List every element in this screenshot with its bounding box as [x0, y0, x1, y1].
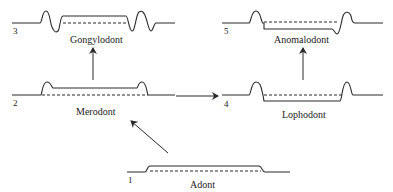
profile-anomalodont [222, 11, 383, 34]
label-adont: Adont [190, 179, 215, 190]
label-lophodont: Lophodont [282, 109, 326, 120]
profile-adont [127, 166, 290, 172]
profile-lophodont [222, 82, 383, 101]
stage-number-3: 3 [13, 26, 18, 36]
profile-merodont [12, 82, 175, 95]
label-anomalodont: Anomalodont [274, 34, 329, 45]
diagram-canvas [0, 0, 393, 192]
stage-number-2: 2 [13, 98, 18, 108]
label-merodont: Merodont [76, 106, 115, 117]
profile-gongylodont [12, 11, 175, 32]
label-gongylodont: Gongylodont [70, 34, 123, 45]
arrow-adont-to-merodont [131, 121, 168, 153]
stage-number-5: 5 [224, 26, 229, 36]
stage-number-1: 1 [128, 175, 133, 185]
stage-number-4: 4 [224, 99, 229, 109]
